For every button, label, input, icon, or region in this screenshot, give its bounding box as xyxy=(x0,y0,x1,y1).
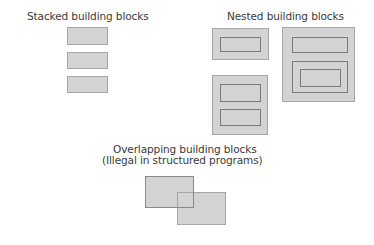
overlapping-block-a-outline xyxy=(145,176,194,208)
nested-title: Nested building blocks xyxy=(227,11,344,22)
nested-example-3-outer xyxy=(282,27,355,102)
nested-example-3-inner-top xyxy=(292,37,348,53)
stacked-block-3 xyxy=(67,76,108,93)
stacked-block-1 xyxy=(67,27,108,45)
overlapping-title-line2: (Illegal in structured programs) xyxy=(102,155,263,166)
nested-example-3-innermost xyxy=(300,69,341,87)
nested-example-3-inner-bottom xyxy=(292,61,348,93)
nested-example-1-outer xyxy=(212,28,269,60)
nested-example-1-inner xyxy=(220,37,261,52)
stacked-block-2 xyxy=(67,52,108,69)
nested-example-2-inner-bottom xyxy=(220,109,261,126)
nested-example-2-outer xyxy=(212,75,268,135)
stacked-title: Stacked building blocks xyxy=(27,11,149,22)
nested-example-2-inner-top xyxy=(220,84,261,102)
